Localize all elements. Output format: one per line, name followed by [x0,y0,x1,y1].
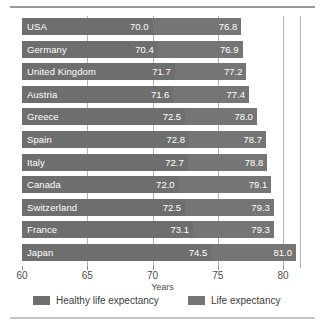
bar-value-healthy: 72.5 [151,200,181,215]
bar-value-life: 81.0 [262,245,292,260]
bar-value-life: 78.7 [232,132,262,147]
bar-row: Switzerland72.579.3 [22,199,283,216]
bar-value-life: 76.9 [209,42,239,57]
bar-category-label: Austria [27,87,57,102]
bar-category-label: USA [27,19,47,34]
bar-value-healthy: 71.7 [141,64,171,79]
bar-row: Germany70.476.9 [22,41,283,58]
bar-value-healthy: 73.1 [159,222,189,237]
bar-category-label: Germany [27,42,67,57]
bar-row: Canada72.079.1 [22,176,283,193]
bar-value-life: 77.4 [215,87,245,102]
legend-item[interactable]: Life expectancy [188,295,281,306]
chart-legend: Healthy life expectancyLife expectancy [0,295,325,309]
axis-tick-label: 80 [277,270,288,281]
bar-value-life: 78.8 [233,155,263,170]
bar-category-label: France [27,222,57,237]
gridline [283,16,284,266]
bar-row: Spain72.878.7 [22,131,283,148]
chart-figure: USA70.076.8Germany70.476.9United Kingdom… [0,0,325,327]
bar-value-life: 77.2 [212,64,242,79]
bar-row: United Kingdom71.777.2 [22,63,283,80]
legend-swatch [188,296,205,305]
bar-row: Greece72.578.0 [22,108,283,125]
axis-tick-label: 70 [147,270,158,281]
bar-category-label: Greece [27,109,59,124]
bar-row: Austria71.677.4 [22,86,283,103]
axis-tick-label: 65 [82,270,93,281]
bar-category-label: Canada [27,177,61,192]
legend-label: Life expectancy [211,295,281,306]
legend-swatch [33,296,50,305]
bar-value-life: 79.3 [240,200,270,215]
axis-tick-label: 75 [212,270,223,281]
top-divider-rule [10,6,315,8]
bar-value-healthy: 71.6 [139,87,169,102]
bar-rows: USA70.076.8Germany70.476.9United Kingdom… [22,16,283,266]
bar-value-healthy: 72.5 [151,109,181,124]
bar-row: Japan74.581.0 [22,244,283,261]
bar-value-healthy: 72.8 [155,132,185,147]
bar-value-healthy: 70.0 [119,19,149,34]
plot-area: USA70.076.8Germany70.476.9United Kingdom… [22,16,283,266]
bar-category-label: Japan [27,245,53,260]
bar-value-healthy: 72.7 [154,155,184,170]
bar-value-healthy: 72.0 [145,177,175,192]
x-axis: 6065707580 [22,266,283,267]
right-border-rule [300,16,301,268]
bar-category-label: Spain [27,132,52,147]
bar-row: Italy72.778.8 [22,154,283,171]
bar-category-label: Italy [27,155,45,170]
bar-category-label: United Kingdom [27,64,96,79]
bar-value-life: 79.1 [237,177,267,192]
bar-category-label: Switzerland [27,200,77,215]
legend-item[interactable]: Healthy life expectancy [33,295,159,306]
bottom-divider-rule [10,317,315,319]
bar-row: France73.179.3 [22,221,283,238]
axis-tick-label: 60 [16,270,27,281]
bar-value-healthy: 70.4 [124,42,154,57]
bar-value-life: 76.8 [207,19,237,34]
bar-row: USA70.076.8 [22,18,283,35]
x-axis-title: Years [0,282,325,292]
legend-label: Healthy life expectancy [56,295,159,306]
bar-value-life: 79.3 [240,222,270,237]
bar-value-healthy: 74.5 [177,245,207,260]
bar-value-life: 78.0 [223,109,253,124]
